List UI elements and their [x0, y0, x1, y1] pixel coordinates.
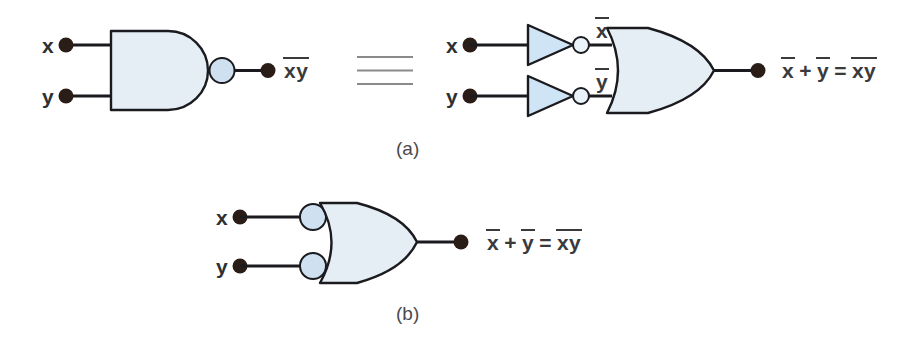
equivalence-symbol-icon — [357, 57, 413, 84]
partb-input-x-label: x — [216, 207, 228, 228]
partb-input-y-label: y — [216, 256, 228, 277]
nand-input-x-dot — [59, 38, 74, 53]
logic-diagram-canvas: .gbody { fill:#e4eef4; stroke:#1b1b1f; s… — [0, 0, 921, 343]
inverter-x-bubble-icon — [573, 37, 589, 53]
nand-output-term: xy — [284, 59, 308, 81]
part-b-eq-term3: xy — [557, 231, 581, 253]
nor-equivalent-gate-group — [233, 203, 469, 283]
nand-output-bubble-icon — [210, 58, 235, 83]
part-a-eq-term2: y — [817, 59, 829, 81]
logic-gate-svg: .gbody { fill:#e4eef4; stroke:#1b1b1f; s… — [0, 0, 921, 343]
partb-input-y-bubble-icon — [300, 253, 326, 279]
part-a-equation: x+y=xy — [782, 59, 876, 81]
caption-b: (b) — [396, 304, 419, 323]
part-a-eq-term1: x — [782, 59, 794, 81]
part-a-eq-term3: xy — [852, 59, 876, 81]
part-a-eq-equals: = — [829, 60, 852, 81]
nand-input-x-label: x — [42, 35, 54, 56]
part-b-equation: x+y=xy — [487, 231, 581, 253]
inverter-y-icon — [528, 76, 573, 116]
part-b-eq-equals: = — [534, 232, 557, 253]
nand-gate-group — [59, 31, 276, 110]
nand-output-label: xy — [284, 59, 308, 81]
nand-output-dot — [261, 63, 276, 78]
inverter-x-icon — [528, 25, 573, 65]
eq-input-x-label: x — [446, 35, 458, 56]
or-gate-body — [607, 28, 714, 113]
or-gate-output-dot — [751, 63, 766, 78]
partb-output-dot — [454, 235, 469, 250]
part-b-eq-term2: y — [522, 231, 534, 253]
nand-gate-body — [111, 31, 208, 110]
inverter-x-output-label: x — [596, 19, 608, 41]
part-b-eq-term1: x — [487, 231, 499, 253]
partb-or-gate-body — [320, 203, 417, 283]
equivalent-circuit-group — [463, 25, 766, 116]
eq-input-y-label: y — [446, 86, 458, 107]
nand-input-y-dot — [59, 89, 74, 104]
part-b-eq-plus: + — [499, 232, 522, 253]
part-a-eq-plus: + — [794, 60, 817, 81]
inverter-y-bubble-icon — [573, 88, 589, 104]
nand-input-y-label: y — [42, 86, 54, 107]
caption-a: (a) — [396, 139, 419, 158]
inverter-y-output-label: y — [596, 70, 608, 92]
